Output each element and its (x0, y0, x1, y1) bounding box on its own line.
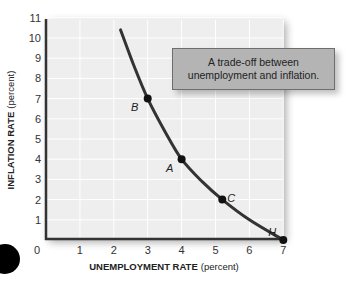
point-a-marker (178, 155, 186, 163)
point-a-label: A (165, 162, 173, 174)
x-axis-label: UNEMPLOYMENT RATE(percent) (89, 261, 239, 272)
y-tick-label: 2 (35, 194, 41, 206)
x-tick-label: 2 (111, 244, 117, 256)
x-tick-labels: 01234567 (34, 244, 286, 256)
x-tick-label: 7 (280, 244, 286, 256)
y-tick-label: 1 (35, 214, 41, 226)
annotation-callout: A trade-off between unemployment and inf… (172, 48, 335, 90)
y-tick-label: 11 (30, 12, 41, 24)
y-tick-label: 6 (35, 113, 41, 125)
x-tick-label: 3 (145, 244, 151, 256)
y-tick-label: 7 (35, 93, 41, 105)
point-h-marker (279, 236, 287, 244)
point-b-marker (144, 95, 152, 103)
annotation-line-2: unemployment and inflation. (188, 69, 319, 82)
point-c-label: C (227, 192, 235, 204)
annotation-line-1: A trade-off between (208, 56, 299, 69)
x-tick-label: 0 (34, 244, 40, 256)
point-c-marker (218, 196, 226, 204)
y-tick-label: 8 (35, 72, 41, 84)
x-tick-label: 5 (212, 244, 218, 256)
point-h-label: H (268, 226, 276, 238)
y-tick-label: 9 (35, 52, 41, 64)
x-tick-label: 4 (179, 244, 185, 256)
y-tick-label: 4 (35, 153, 41, 165)
y-tick-labels: 1234567891011 (29, 12, 41, 226)
x-tick-label: 6 (246, 244, 252, 256)
y-tick-label: 5 (35, 133, 41, 145)
y-tick-label: 10 (29, 32, 41, 44)
y-axis-label: INFLATION RATE(percent) (5, 71, 16, 190)
y-tick-label: 3 (35, 173, 41, 185)
point-b-label: B (131, 101, 138, 113)
x-tick-label: 1 (77, 244, 83, 256)
phillips-curve-chart: 1234567891011 01234567 BACH UNEMPLOYMENT… (0, 0, 354, 282)
